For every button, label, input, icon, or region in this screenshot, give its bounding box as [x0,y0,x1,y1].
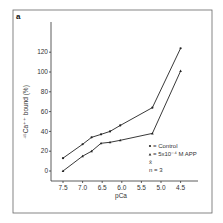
data-point-control [109,130,111,132]
x-tick-label: 7.0 [78,184,87,191]
y-tick-label: 120 [37,48,48,55]
legend-mean-symbol: x̄ [149,159,152,165]
data-point-control [100,133,102,135]
legend-label-app: = 5x10⁻⁴ M APP [153,151,197,157]
x-tick-label: 5.5 [137,184,146,191]
data-point-control [119,124,121,126]
data-point-control [180,47,182,49]
data-point-control [82,143,84,145]
y-tick-label: 40 [41,128,49,135]
y-tick-label: 100 [37,68,48,75]
x-tick-label: 5.0 [156,184,165,191]
legend-marker-control [149,145,151,147]
x-tick-label: 6.0 [117,184,126,191]
y-axis-label: ⁴⁵Ca⁺⁺ bound (%) [22,85,30,139]
data-point-control [91,136,93,138]
y-tick-label: 80 [41,88,49,95]
y-tick-label: 60 [41,108,49,115]
legend-sample-size: n = 3 [149,167,163,173]
panel-label: a [16,12,21,21]
x-tick-label: 6.5 [98,184,107,191]
data-point-control [62,157,64,159]
y-tick-label: 0 [44,167,48,174]
legend-label-control: = Control [153,143,178,149]
data-point-control [151,107,153,109]
y-tick-label: 20 [41,147,49,154]
x-tick-label: 7.5 [58,184,67,191]
x-tick-label: 4.5 [176,184,185,191]
chart: a 0204060801001207.57.06.56.05.55.04.5 p… [0,0,223,223]
x-axis-label: pCa [115,192,127,200]
